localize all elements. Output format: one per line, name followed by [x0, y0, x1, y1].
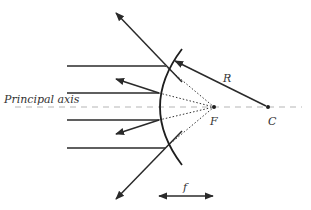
focal-point-dot [212, 105, 216, 109]
principal-axis-label: Principal axis [3, 93, 80, 106]
focal-point-label: F [209, 115, 218, 128]
focal-length-label: f [182, 181, 189, 194]
center-of-curvature-dot [266, 105, 270, 109]
center-of-curvature-label: C [268, 115, 277, 128]
reflected-ray-1 [116, 13, 182, 82]
convex-mirror-diagram: Principal axis F C R f [0, 0, 311, 210]
radius-line [175, 61, 266, 106]
reflected-ray-4 [116, 131, 182, 199]
reflected-ray-2 [116, 79, 159, 93]
reflected-ray-3 [116, 120, 159, 134]
radius-label: R [222, 72, 231, 85]
reflected-rays [116, 13, 182, 199]
